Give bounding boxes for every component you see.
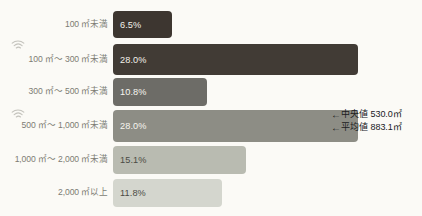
left-arrow-icon: ←: [331, 123, 341, 133]
bar-track: 10.8%: [113, 78, 422, 106]
chart-row: 100 ㎡未満 6.5%: [0, 11, 422, 38]
bar-value-label: 6.5%: [113, 20, 141, 30]
category-label: 300 ㎡〜 500 ㎡未満: [0, 87, 113, 96]
bar-value-label: 10.8%: [113, 87, 147, 97]
bar-value-label: 15.1%: [113, 155, 147, 165]
bar-value-label: 11.8%: [113, 188, 146, 198]
category-label: 100 ㎡〜 300 ㎡未満: [0, 55, 113, 64]
bar-track: 6.5%: [113, 11, 422, 38]
bar[interactable]: 15.1%: [113, 146, 246, 174]
category-label: 500 ㎡〜 1,000 ㎡未満: [0, 121, 113, 130]
median-annotation: ← 中央値 530.0㎡: [331, 108, 402, 121]
bar[interactable]: 6.5%: [113, 11, 172, 38]
horizontal-bar-chart: 100 ㎡未満 6.5% 100 ㎡〜 300 ㎡未満 28.0% 300 ㎡〜…: [0, 0, 422, 216]
left-arrow-icon: ←: [331, 110, 341, 120]
median-label: 中央値: [341, 108, 368, 121]
mean-value: 883.1㎡: [371, 121, 402, 134]
bar[interactable]: 28.0%: [113, 110, 358, 142]
chart-row: 100 ㎡〜 300 ㎡未満 28.0%: [0, 44, 422, 75]
bar-track: 11.8%: [113, 179, 422, 207]
mean-label: 平均値: [341, 121, 368, 134]
chart-row: 2,000 ㎡以上 11.8%: [0, 179, 422, 207]
bar[interactable]: 11.8%: [113, 179, 222, 207]
bar[interactable]: 28.0%: [113, 44, 358, 75]
chart-row: 1,000 ㎡〜 2,000 ㎡未満 15.1%: [0, 146, 422, 174]
chart-row: 300 ㎡〜 500 ㎡未満 10.8%: [0, 78, 422, 106]
bar-track: 28.0%: [113, 44, 422, 75]
category-label: 100 ㎡未満: [0, 20, 113, 29]
bar[interactable]: 10.8%: [113, 78, 207, 106]
bar-track: 15.1%: [113, 146, 422, 174]
bar-value-label: 28.0%: [113, 55, 147, 65]
statistics-annotations: ← 中央値 530.0㎡ ← 平均値 883.1㎡: [331, 108, 402, 134]
category-label: 2,000 ㎡以上: [0, 188, 113, 197]
mean-annotation: ← 平均値 883.1㎡: [331, 121, 402, 134]
median-value: 530.0㎡: [371, 108, 402, 121]
bar-value-label: 28.0%: [113, 121, 147, 131]
category-label: 1,000 ㎡〜 2,000 ㎡未満: [0, 155, 113, 164]
